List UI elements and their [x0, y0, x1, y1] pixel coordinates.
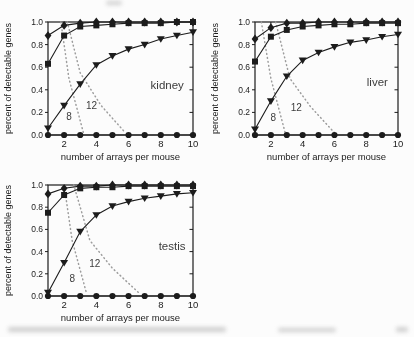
y-axis-label: percent of detectable genes — [210, 22, 220, 134]
y-tick-label: 0.4 — [238, 85, 250, 95]
tissue-label: testis — [159, 240, 186, 252]
series-line-mid-start-curve — [48, 22, 193, 64]
dotted-line-label: 8 — [66, 111, 72, 122]
tissue-label: kidney — [151, 79, 184, 91]
dotted-line-8 — [61, 22, 84, 133]
x-tick-label: 10 — [393, 138, 404, 149]
y-tick-label: 0.0 — [31, 130, 43, 140]
x-axis-label: number of arrays per mouse — [61, 312, 180, 323]
dotted-line-label: 12 — [86, 100, 98, 111]
dotted-line-12 — [67, 22, 125, 133]
x-axis-label: number of arrays per mouse — [267, 151, 386, 162]
x-tick-label: 8 — [364, 138, 369, 149]
microarray-detectable-genes-figure: 0.00.20.40.60.81.0246810812kidneynumber … — [0, 0, 414, 337]
x-tick-label: 4 — [94, 299, 99, 310]
y-tick-label: 0.2 — [31, 107, 43, 117]
dotted-line-label: 8 — [69, 273, 75, 284]
x-tick-label: 8 — [158, 138, 163, 149]
x-tick-label: 6 — [332, 138, 337, 149]
x-axis-label: number of arrays per mouse — [61, 151, 180, 162]
x-tick-label: 2 — [61, 299, 66, 310]
y-tick-label: 0.6 — [31, 62, 43, 72]
dotted-line-label: 12 — [89, 258, 101, 269]
illegible-caption-remnant-left — [8, 327, 226, 332]
x-tick-label: 6 — [126, 299, 131, 310]
chart-canvas-kidney: 0.00.20.40.60.81.0246810812kidneynumber … — [0, 0, 207, 168]
tissue-label: liver — [367, 76, 388, 88]
series-line-mid-start-curve — [255, 23, 398, 61]
chart-canvas-liver: 0.00.20.40.60.81.0246810812livernumber o… — [207, 0, 414, 168]
dotted-line-8 — [64, 185, 87, 294]
y-tick-label: 1.0 — [31, 180, 43, 190]
x-tick-label: 4 — [300, 138, 305, 149]
series-line-mid-start-curve — [48, 186, 193, 213]
chart-canvas-testis: 0.00.20.40.60.81.0246810812testisnumber … — [0, 168, 207, 337]
x-tick-label: 2 — [268, 138, 273, 149]
illegible-caption-remnant-right — [396, 327, 408, 332]
series-markers-high-start-curve — [45, 181, 197, 199]
x-tick-label: 2 — [61, 138, 66, 149]
y-tick-label: 0.8 — [31, 40, 43, 50]
x-tick-label: 6 — [126, 138, 131, 149]
dotted-line-12 — [276, 22, 335, 133]
illegible-caption-remnant-mid — [278, 328, 336, 332]
subplot-kidney: 0.00.20.40.60.81.0246810812kidneynumber … — [0, 0, 207, 168]
y-tick-label: 0.8 — [238, 40, 250, 50]
x-tick-label: 8 — [158, 299, 163, 310]
x-tick-label: 10 — [188, 299, 199, 310]
y-tick-label: 0.4 — [31, 247, 43, 257]
y-axis-label: percent of detectable genes — [3, 184, 13, 296]
scan-artifact-top — [106, 1, 122, 5]
subplot-testis: 0.00.20.40.60.81.0246810812testisnumber … — [0, 168, 207, 337]
y-tick-label: 1.0 — [31, 17, 43, 27]
y-tick-label: 0.2 — [31, 269, 43, 279]
dotted-line-label: 12 — [291, 102, 303, 113]
y-tick-label: 0.6 — [238, 62, 250, 72]
y-tick-label: 0.2 — [238, 107, 250, 117]
y-tick-label: 0.0 — [31, 291, 43, 301]
y-tick-label: 0.8 — [31, 202, 43, 212]
y-tick-label: 0.0 — [238, 130, 250, 140]
x-tick-label: 10 — [188, 138, 199, 149]
y-tick-label: 0.6 — [31, 224, 43, 234]
x-tick-label: 4 — [94, 138, 99, 149]
dotted-line-label: 8 — [270, 112, 276, 123]
y-tick-label: 1.0 — [238, 17, 250, 27]
y-axis-label: percent of detectable genes — [3, 22, 13, 134]
y-tick-label: 0.4 — [31, 85, 43, 95]
subplot-liver: 0.00.20.40.60.81.0246810812livernumber o… — [207, 0, 414, 168]
